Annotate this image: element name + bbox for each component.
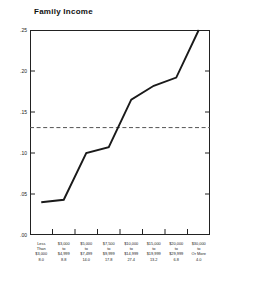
x-category-percent: 13.2 [143,257,166,262]
x-category-label: $5,000to$7,49914.0 [75,241,98,285]
x-axis-ticks [53,229,188,235]
x-category-percent: 6.8 [165,257,188,262]
y-tick-label: .05 [20,192,27,197]
x-category-percent: 4.0 [188,257,211,262]
y-axis-ticks [30,71,210,194]
family-income-chart: Family Income .00.05.10.15.20.25 LessTha… [0,0,266,290]
plot-svg [30,30,210,235]
x-category-label: $10,000to$14,99927.4 [120,241,143,285]
x-axis-labels: LessThan$3,0008.0$3,000to$4,9998.8$5,000… [30,241,210,285]
x-category-label: $30,000toOr More4.0 [188,241,211,285]
y-tick-label: .00 [20,233,27,238]
x-category-percent: 8.8 [53,257,76,262]
x-category-label: LessThan$3,0008.0 [30,241,53,285]
y-tick-label: .25 [20,28,27,33]
x-category-percent: 17.8 [98,257,121,262]
x-category-label: $7,500to$9,99917.8 [98,241,121,285]
plot-area: .00.05.10.15.20.25 [30,30,210,235]
x-category-label: $20,000to$29,9996.8 [165,241,188,285]
x-category-percent: 8.0 [30,257,53,262]
chart-title: Family Income [34,7,93,16]
y-tick-label: .15 [20,110,27,115]
y-tick-label: .10 [20,151,27,156]
x-category-label: $15,000to$19,99913.2 [143,241,166,285]
y-tick-label: .20 [20,69,27,74]
x-category-percent: 27.4 [120,257,143,262]
x-category-label: $3,000to$4,9998.8 [53,241,76,285]
data-series-line [41,30,199,202]
x-category-percent: 14.0 [75,257,98,262]
